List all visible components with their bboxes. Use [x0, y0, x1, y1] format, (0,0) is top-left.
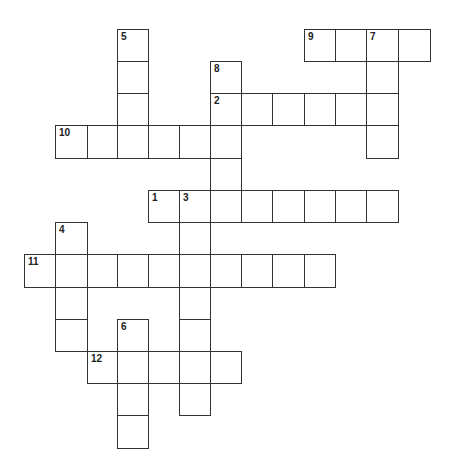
crossword-cell[interactable] [366, 190, 399, 223]
crossword-cell[interactable]: 8 [210, 61, 242, 94]
crossword-cell[interactable] [55, 287, 88, 320]
clue-number: 2 [214, 96, 220, 106]
crossword-cell[interactable] [366, 61, 399, 94]
crossword-cell[interactable]: 12 [87, 351, 118, 384]
crossword-cell[interactable] [335, 190, 367, 223]
crossword-cell[interactable] [117, 93, 149, 126]
crossword-cell[interactable] [179, 222, 211, 255]
crossword-cell[interactable] [87, 254, 118, 288]
clue-number: 6 [121, 322, 127, 332]
crossword-cell[interactable] [241, 254, 273, 288]
crossword-cell[interactable] [210, 125, 242, 159]
crossword-cell[interactable] [179, 383, 211, 416]
crossword-cell[interactable] [179, 125, 211, 159]
crossword-cell[interactable] [148, 351, 180, 384]
crossword-cell[interactable] [179, 351, 211, 384]
crossword-cell[interactable] [366, 125, 399, 159]
crossword-cell[interactable] [179, 319, 211, 352]
crossword-cell[interactable] [304, 254, 336, 288]
crossword-cell[interactable] [272, 254, 305, 288]
crossword-cell[interactable] [210, 190, 242, 223]
crossword-cell[interactable]: 6 [117, 319, 149, 352]
clue-number: 11 [28, 257, 39, 267]
crossword-cell[interactable] [335, 93, 367, 126]
clue-number: 12 [91, 354, 102, 364]
crossword-cell[interactable] [117, 415, 149, 449]
clue-number: 5 [121, 32, 127, 42]
crossword-cell[interactable] [398, 29, 431, 62]
crossword-cell[interactable] [366, 93, 399, 126]
crossword-cell[interactable]: 1 [148, 190, 180, 223]
crossword-cell[interactable] [55, 319, 88, 352]
crossword-cell[interactable] [335, 29, 367, 62]
crossword-cell[interactable] [272, 190, 305, 223]
crossword-grid: 132456789101112 [0, 0, 455, 476]
crossword-cell[interactable] [117, 254, 149, 288]
crossword-cell[interactable] [148, 125, 180, 159]
clue-number: 7 [370, 32, 376, 42]
crossword-cell[interactable] [304, 93, 336, 126]
crossword-cell[interactable]: 4 [55, 222, 88, 255]
clue-number: 3 [183, 193, 189, 203]
crossword-cell[interactable] [241, 93, 273, 126]
crossword-cell[interactable] [179, 254, 211, 288]
crossword-cell[interactable] [210, 158, 242, 191]
crossword-cell[interactable] [148, 254, 180, 288]
crossword-cell[interactable] [210, 254, 242, 288]
crossword-cell[interactable]: 2 [210, 93, 242, 126]
crossword-cell[interactable] [117, 383, 149, 416]
crossword-cell[interactable] [87, 125, 118, 159]
clue-number: 8 [214, 64, 220, 74]
crossword-cell[interactable]: 9 [304, 29, 336, 62]
crossword-cell[interactable] [117, 351, 149, 384]
crossword-cell[interactable] [117, 125, 149, 159]
crossword-cell[interactable] [179, 287, 211, 320]
clue-number: 1 [152, 193, 158, 203]
crossword-cell[interactable] [272, 93, 305, 126]
crossword-cell[interactable] [304, 190, 336, 223]
clue-number: 10 [59, 128, 70, 138]
crossword-cell[interactable] [241, 190, 273, 223]
crossword-cell[interactable]: 7 [366, 29, 399, 62]
crossword-cell[interactable] [117, 61, 149, 94]
crossword-cell[interactable]: 5 [117, 29, 149, 62]
crossword-cell[interactable]: 3 [179, 190, 211, 223]
clue-number: 9 [308, 32, 314, 42]
clue-number: 4 [59, 225, 65, 235]
crossword-cell[interactable]: 10 [55, 125, 88, 159]
crossword-cell[interactable]: 11 [24, 254, 56, 288]
crossword-cell[interactable] [210, 351, 242, 384]
crossword-cell[interactable] [55, 254, 88, 288]
